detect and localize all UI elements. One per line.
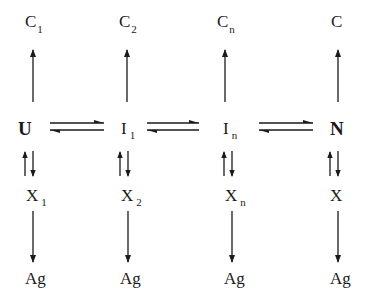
label-c1: C1 [25,13,43,30]
label-x2: X2 [121,187,142,204]
state-n: N [330,119,344,138]
state-i1: I1 [121,120,135,137]
label-c2: C2 [119,13,137,30]
label-c: C [331,13,343,30]
label-ag: Ag [330,270,351,287]
state-u: U [18,119,32,138]
label-ag-n: Ag [224,270,245,287]
label-ag-1: Ag [25,270,46,287]
label-xn: Xn [225,187,246,204]
state-in: In [223,120,237,137]
reaction-arrows [0,0,368,300]
label-cn: Cn [217,13,235,30]
label-x: X [330,187,342,204]
label-ag-2: Ag [120,270,141,287]
label-x1: X1 [26,187,47,204]
